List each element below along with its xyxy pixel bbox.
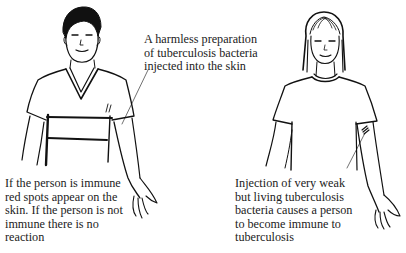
- caption-line: bacteria causes a person: [235, 204, 352, 218]
- injection-site: [362, 126, 369, 134]
- caption-line: skin. If the person is not: [5, 204, 123, 218]
- caption-line: tuberculosis: [235, 231, 352, 245]
- caption-line: A harmless preparation: [144, 33, 258, 47]
- caption-vaccination: Injection of very weak but living tuberc…: [235, 177, 352, 245]
- top-caption-leader-line: [122, 70, 148, 124]
- caption-line: Injection of very weak: [235, 177, 352, 191]
- left-person-face: [66, 32, 98, 62]
- caption-immune-reaction: If the person is immune red spots appear…: [5, 177, 123, 245]
- caption-line: reaction: [5, 231, 123, 245]
- caption-line: If the person is immune: [5, 177, 123, 191]
- caption-line: red spots appear on the: [5, 191, 123, 205]
- caption-line: immune there is no: [5, 218, 123, 232]
- caption-line: injected into the skin: [144, 60, 258, 74]
- left-person-collar: [66, 69, 98, 99]
- right-person-collar: [312, 77, 339, 82]
- left-person-hand: [133, 178, 157, 218]
- left-person-hair: [63, 7, 101, 38]
- caption-line: of tuberculosis bacteria: [144, 47, 258, 61]
- caption-line: to become immune to: [235, 218, 352, 232]
- caption-line: but living tuberculosis: [235, 191, 352, 205]
- caption-injection: A harmless preparation of tuberculosis b…: [144, 33, 258, 74]
- figure-canvas: A harmless preparation of tuberculosis b…: [0, 0, 406, 253]
